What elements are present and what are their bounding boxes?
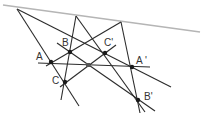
label-B: B [62, 37, 69, 48]
point-B2 [136, 98, 140, 102]
line-1 [17, 9, 171, 87]
perspective-center [86, 63, 90, 67]
diagram-svg: ABCA 'B'C' [0, 0, 209, 123]
desargues-diagram: ABCA 'B'C' [0, 0, 209, 123]
point-B [68, 50, 72, 54]
line-0 [17, 9, 79, 106]
label-C2: C' [104, 37, 113, 48]
label-C: C [52, 75, 59, 86]
label-A: A [36, 51, 43, 62]
label-B2: B' [144, 91, 153, 102]
point-A [49, 60, 53, 64]
point-C2 [103, 51, 107, 55]
line-2 [61, 16, 76, 100]
label-A2: A ' [136, 55, 147, 66]
point-A2 [130, 65, 134, 69]
axis-line [3, 5, 200, 32]
point-C [63, 80, 67, 84]
